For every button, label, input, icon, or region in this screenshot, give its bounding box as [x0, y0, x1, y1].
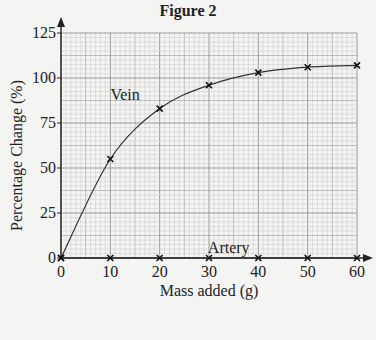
y-tick-label: 125	[32, 24, 56, 41]
y-tick-label: 100	[32, 69, 56, 86]
annotation-artery: Artery	[208, 239, 250, 257]
y-axis-label: Percentage Change (%)	[8, 80, 26, 231]
y-tick-label: 75	[40, 114, 56, 131]
y-axis-arrow-icon	[57, 17, 65, 27]
y-tick-label: 25	[40, 204, 56, 221]
x-tick-label: 40	[250, 263, 266, 280]
x-tick-label: 30	[201, 263, 217, 280]
annotation-vein: Vein	[110, 86, 139, 103]
y-tick-label: 50	[40, 159, 56, 176]
x-axis-label: Mass added (g)	[160, 282, 259, 300]
x-tick-label: 10	[102, 263, 118, 280]
y-tick-label: 0	[48, 249, 56, 266]
x-axis-arrow-icon	[363, 254, 373, 262]
x-tick-label: 60	[349, 263, 365, 280]
line-chart: 01020304050600255075100125Mass added (g)…	[0, 0, 376, 340]
x-tick-label: 20	[152, 263, 168, 280]
x-tick-label: 50	[300, 263, 316, 280]
x-tick-label: 0	[57, 263, 65, 280]
